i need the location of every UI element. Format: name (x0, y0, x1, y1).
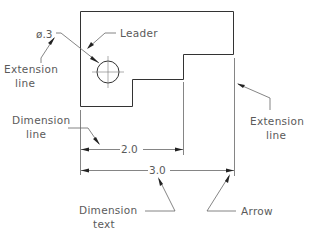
label-extension-line-left-2: line (15, 77, 35, 89)
arrow-icon (175, 148, 183, 152)
dimension-text-3-0: 3.0 (149, 164, 166, 176)
label-dimension-line-1: Dimension (12, 114, 71, 126)
arrow-icon (237, 84, 245, 89)
label-dimension-text-2: text (93, 218, 115, 230)
callout-extension-right (238, 84, 270, 110)
arrow-icon (81, 148, 89, 152)
arrow-icon (81, 169, 89, 173)
label-extension-line-right-2: line (266, 129, 286, 141)
arrow-icon (93, 137, 100, 145)
technical-drawing: 2.0 3.0 ø.3 Leader Extension line Extens… (0, 0, 314, 237)
label-arrow: Arrow (241, 205, 273, 217)
label-leader: Leader (120, 27, 158, 39)
arrow-icon (226, 169, 234, 173)
label-extension-line-right-1: Extension (250, 115, 304, 127)
dimension-text-2-0: 2.0 (121, 143, 138, 155)
callout-dimension-line (68, 128, 99, 144)
hole-diameter-note: ø.3 (36, 28, 52, 40)
arrow-icon (87, 42, 94, 49)
label-dimension-line-2: line (26, 128, 46, 140)
label-extension-line-left-1: Extension (4, 63, 58, 75)
part-outline (81, 12, 234, 107)
arrow-icon (90, 56, 99, 63)
label-dimension-text-1: Dimension (79, 204, 138, 216)
callout-arrow (207, 176, 236, 211)
